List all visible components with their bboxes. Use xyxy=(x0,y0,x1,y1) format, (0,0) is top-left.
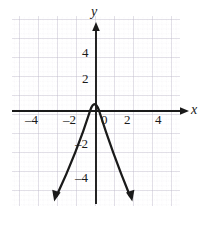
y-tick-label-2: 2 xyxy=(82,72,89,85)
x-tick-label-neg2: –2 xyxy=(63,113,76,126)
x-tick-label-4: 4 xyxy=(155,113,162,126)
x-axis-label: x xyxy=(191,103,197,117)
x-tick-label-neg4: –4 xyxy=(25,113,38,126)
graph-figure: –4 –2 0 2 4 4 2 –2 –4 x y xyxy=(0,0,208,239)
y-tick-label-neg2: –2 xyxy=(75,137,88,150)
y-tick-label-neg4: –4 xyxy=(75,171,88,184)
y-axis-label: y xyxy=(91,5,97,19)
y-tick-label-4: 4 xyxy=(82,46,89,59)
x-tick-label-2: 2 xyxy=(124,113,131,126)
x-tick-label-0: 0 xyxy=(101,113,108,126)
